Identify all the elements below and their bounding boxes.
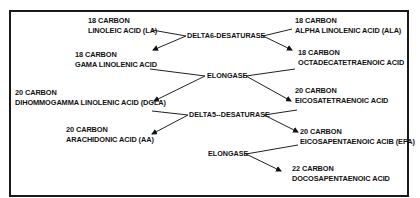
acid-name: ARACHIDONIC ACID (AA): [66, 135, 154, 145]
node-linoleic-acid: 18 CARBON LINOLEIC ACID (LA): [88, 16, 157, 36]
acid-name: LINOLEIC ACID (LA): [88, 26, 157, 36]
carbon-count: 18 CARBON: [295, 16, 401, 26]
acid-name: OCTADECATETRAENOIC ACID: [298, 58, 404, 68]
acid-name: DIHOMMOGAMMA LINOLENIC ACID (DGLA): [15, 98, 166, 108]
node-gamma-linolenic-acid: 18 CARBON GAMA LINOLENIC ACID: [75, 50, 157, 70]
carbon-count: 18 CARBON: [75, 50, 157, 60]
acid-name: DOCOSAPENTAENOIC ACID: [292, 174, 390, 184]
enzyme-elongase-1: ELONGASE: [207, 71, 247, 81]
carbon-count: 22 CARBON: [292, 164, 390, 174]
enzyme-delta6-desaturase: DELTA6-DESATURASE: [187, 31, 265, 41]
carbon-count: 20 CARBON: [300, 127, 415, 137]
node-eicosatetraenoic-acid: 20 CARBON EICOSATETRAENOIC ACID: [295, 86, 388, 106]
carbon-count: 20 CARBON: [15, 88, 166, 98]
node-alpha-linolenic-acid: 18 CARBON ALPHA LINOLENIC ACID (ALA): [295, 16, 401, 36]
node-docosapentaenoic-acid: 22 CARBON DOCOSAPENTAENOIC ACID: [292, 164, 390, 184]
node-arachidonic-acid: 20 CARBON ARACHIDONIC ACID (AA): [66, 125, 154, 145]
node-octadecatetraenoic-acid: 18 CARBON OCTADECATETRAENOIC ACID: [298, 48, 404, 68]
node-eicosapentaenoic-acid: 20 CARBON EICOSAPENTAENOIC ACIB (EPA): [300, 127, 415, 147]
node-dgla: 20 CARBON DIHOMMOGAMMA LINOLENIC ACID (D…: [15, 88, 166, 108]
enzyme-elongase-2: ELONGASE: [208, 149, 248, 159]
carbon-count: 18 CARBON: [88, 16, 157, 26]
carbon-count: 20 CARBON: [295, 86, 388, 96]
acid-name: GAMA LINOLENIC ACID: [75, 60, 157, 70]
enzyme-delta5-desaturase: DELTA5--DESATURASE: [189, 110, 270, 120]
acid-name: EICOSAPENTAENOIC ACIB (EPA): [300, 137, 415, 147]
carbon-count: 18 CARBON: [298, 48, 404, 58]
acid-name: ALPHA LINOLENIC ACID (ALA): [295, 26, 401, 36]
acid-name: EICOSATETRAENOIC ACID: [295, 96, 388, 106]
carbon-count: 20 CARBON: [66, 125, 154, 135]
